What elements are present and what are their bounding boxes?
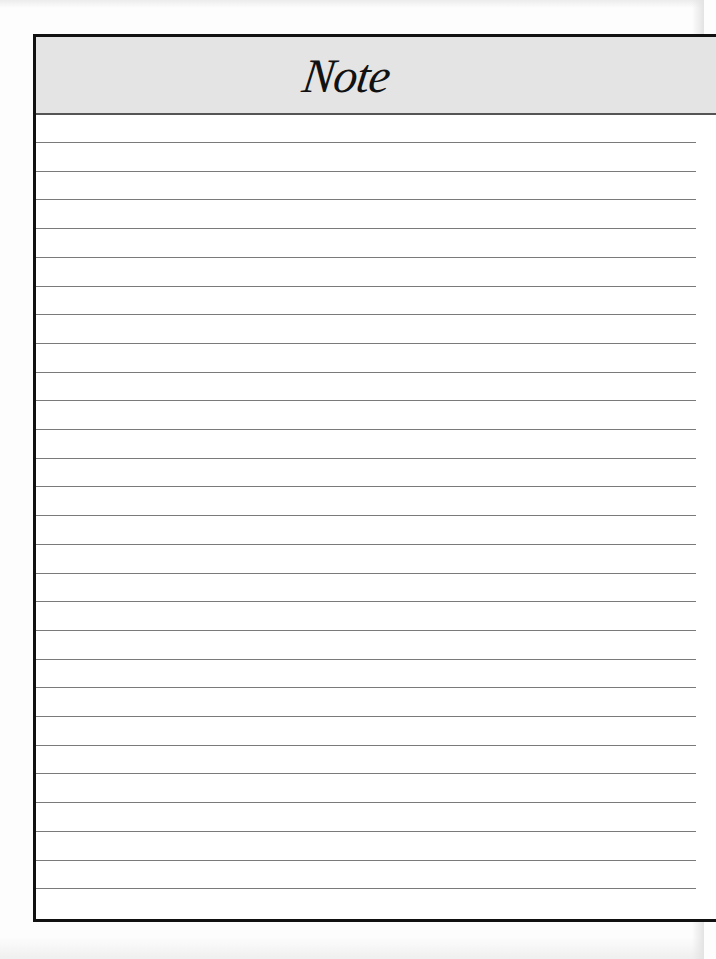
ruled-line: [36, 888, 696, 889]
ruled-line: [36, 773, 696, 774]
ruled-line: [36, 458, 696, 459]
ruled-line: [36, 314, 696, 315]
ruled-line: [36, 860, 696, 861]
ruled-line: [36, 802, 696, 803]
top-edge-shading: [0, 0, 704, 8]
ruled-line: [36, 601, 696, 602]
ruled-line: [36, 429, 696, 430]
ruled-line: [36, 142, 696, 143]
ruled-line: [36, 171, 696, 172]
note-header: Note: [36, 37, 716, 115]
ruled-line: [36, 573, 696, 574]
ruled-line: [36, 745, 696, 746]
writing-area[interactable]: [36, 115, 716, 919]
ruled-line: [36, 716, 696, 717]
ruled-line: [36, 286, 696, 287]
note-page-frame: Note: [33, 34, 716, 922]
ruled-line: [36, 228, 696, 229]
ruled-line: [36, 544, 696, 545]
ruled-line: [36, 630, 696, 631]
ruled-line: [36, 343, 696, 344]
ruled-line: [36, 486, 696, 487]
ruled-line: [36, 515, 696, 516]
ruled-line: [36, 372, 696, 373]
bottom-edge-shading: [0, 937, 704, 959]
ruled-line: [36, 257, 696, 258]
ruled-line: [36, 831, 696, 832]
ruled-line: [36, 400, 696, 401]
ruled-line: [36, 659, 696, 660]
ruled-line: [36, 199, 696, 200]
ruled-line: [36, 687, 696, 688]
page-title: Note: [299, 48, 393, 103]
